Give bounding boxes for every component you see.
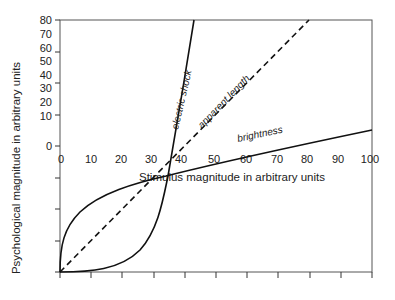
apparent-length-line [60,20,309,272]
x-axis-ticks [60,272,372,278]
svg-text:40: 40 [40,69,52,81]
svg-text:30: 30 [145,153,157,165]
y-axis-ticks [55,20,60,272]
svg-text:20: 20 [115,153,127,165]
svg-text:30: 30 [40,82,52,94]
electric-shock-label: electric shock [169,68,194,130]
svg-text:10: 10 [40,110,52,122]
brightness-label: brightness [236,124,283,144]
electric-shock-curve [60,20,194,272]
svg-text:60: 60 [240,153,252,165]
svg-text:70: 70 [40,28,52,40]
svg-text:0: 0 [46,140,52,152]
brightness-curve [60,130,372,272]
svg-text:10: 10 [85,153,97,165]
svg-text:50: 50 [40,55,52,67]
y-axis-title: Psychological magnitude in arbitrary uni… [10,62,22,274]
svg-text:80: 80 [40,14,52,26]
apparent-length-label: apparent length [196,72,252,130]
svg-text:100: 100 [361,153,379,165]
y-tick-labels: 80 70 60 50 40 30 20 10 0 [40,14,52,152]
svg-text:90: 90 [332,153,344,165]
plot-frame [60,20,372,272]
svg-text:60: 60 [40,42,52,54]
svg-text:20: 20 [40,96,52,108]
chart: 80 70 60 50 40 30 20 10 0 0 10 20 30 40 … [0,0,395,300]
svg-text:0: 0 [58,153,64,165]
svg-text:70: 70 [271,153,283,165]
svg-text:80: 80 [301,153,313,165]
